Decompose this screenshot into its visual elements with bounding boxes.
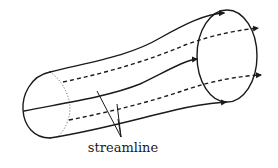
tube-right-end-ellipse <box>197 10 257 102</box>
tube-bottom-boundary <box>50 102 226 138</box>
stream-tube-diagram: streamline <box>0 0 278 168</box>
label-pointer-1 <box>97 91 121 137</box>
streamline-lower-dashed <box>69 75 261 120</box>
tube-left-end-arc <box>23 72 50 138</box>
streamline-middle <box>24 59 197 111</box>
streamline-label: streamline <box>88 140 159 155</box>
